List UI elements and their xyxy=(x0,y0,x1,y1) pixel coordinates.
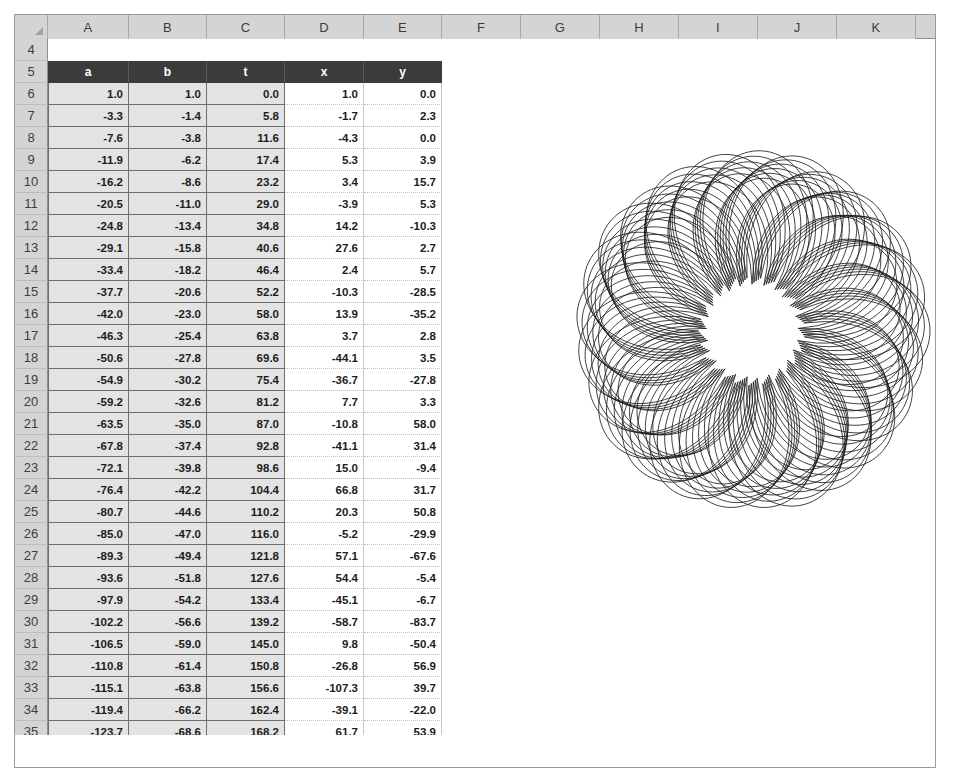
cell-I26[interactable] xyxy=(679,523,758,545)
cell-G30[interactable] xyxy=(521,611,600,633)
cell-A22[interactable]: -67.8 xyxy=(48,435,129,457)
cell-K28[interactable] xyxy=(837,567,916,589)
table-column-header-y[interactable]: y xyxy=(364,61,442,83)
cell-E29[interactable]: -6.7 xyxy=(364,589,442,611)
cell-F16[interactable] xyxy=(442,303,521,325)
select-all-corner-cell[interactable] xyxy=(15,15,48,39)
cell-A19[interactable]: -54.9 xyxy=(48,369,129,391)
cell-J34[interactable] xyxy=(758,699,837,721)
cell-D35[interactable]: 61.7 xyxy=(285,721,364,735)
cell-K17[interactable] xyxy=(837,325,916,347)
cell-J29[interactable] xyxy=(758,589,837,611)
cell-E8[interactable]: 0.0 xyxy=(364,127,442,149)
cell-I12[interactable] xyxy=(679,215,758,237)
column-header-f[interactable]: F xyxy=(442,15,521,39)
cell-K32[interactable] xyxy=(837,655,916,677)
cell-G5[interactable] xyxy=(521,61,600,83)
cell-I6[interactable] xyxy=(679,83,758,105)
cell-D9[interactable]: 5.3 xyxy=(285,149,364,171)
cell-B31[interactable]: -59.0 xyxy=(129,633,207,655)
cell-E18[interactable]: 3.5 xyxy=(364,347,442,369)
cell-F21[interactable] xyxy=(442,413,521,435)
cell-G25[interactable] xyxy=(521,501,600,523)
row-header-35[interactable]: 35 xyxy=(15,721,48,735)
cell-I16[interactable] xyxy=(679,303,758,325)
cell-E32[interactable]: 56.9 xyxy=(364,655,442,677)
cell-H32[interactable] xyxy=(600,655,679,677)
cell-B6[interactable]: 1.0 xyxy=(129,83,207,105)
cell-A6[interactable]: 1.0 xyxy=(48,83,129,105)
cell-B9[interactable]: -6.2 xyxy=(129,149,207,171)
cell-E23[interactable]: -9.4 xyxy=(364,457,442,479)
cell-A27[interactable]: -89.3 xyxy=(48,545,129,567)
cell-G11[interactable] xyxy=(521,193,600,215)
cell-G8[interactable] xyxy=(521,127,600,149)
cell-E30[interactable]: -83.7 xyxy=(364,611,442,633)
cell-I7[interactable] xyxy=(679,105,758,127)
row-header-31[interactable]: 31 xyxy=(15,633,48,655)
cell-I19[interactable] xyxy=(679,369,758,391)
cell-J11[interactable] xyxy=(758,193,837,215)
cell-E11[interactable]: 5.3 xyxy=(364,193,442,215)
cell-B32[interactable]: -61.4 xyxy=(129,655,207,677)
row-header-15[interactable]: 15 xyxy=(15,281,48,303)
cell-G19[interactable] xyxy=(521,369,600,391)
cell-G4[interactable] xyxy=(521,39,600,61)
cell-D16[interactable]: 13.9 xyxy=(285,303,364,325)
cell-B12[interactable]: -13.4 xyxy=(129,215,207,237)
cell-B7[interactable]: -1.4 xyxy=(129,105,207,127)
cell-F9[interactable] xyxy=(442,149,521,171)
cell-D13[interactable]: 27.6 xyxy=(285,237,364,259)
cell-C19[interactable]: 75.4 xyxy=(207,369,285,391)
cell-F6[interactable] xyxy=(442,83,521,105)
cell-J5[interactable] xyxy=(758,61,837,83)
cell-B25[interactable]: -44.6 xyxy=(129,501,207,523)
cell-E12[interactable]: -10.3 xyxy=(364,215,442,237)
cell-A34[interactable]: -119.4 xyxy=(48,699,129,721)
cell-C26[interactable]: 116.0 xyxy=(207,523,285,545)
row-header-12[interactable]: 12 xyxy=(15,215,48,237)
cell-B14[interactable]: -18.2 xyxy=(129,259,207,281)
cell-J14[interactable] xyxy=(758,259,837,281)
cell-I21[interactable] xyxy=(679,413,758,435)
cell-F25[interactable] xyxy=(442,501,521,523)
cell-K31[interactable] xyxy=(837,633,916,655)
cell-D26[interactable]: -5.2 xyxy=(285,523,364,545)
cell-A26[interactable]: -85.0 xyxy=(48,523,129,545)
cell-E15[interactable]: -28.5 xyxy=(364,281,442,303)
cell-J20[interactable] xyxy=(758,391,837,413)
cell-J13[interactable] xyxy=(758,237,837,259)
cell-H34[interactable] xyxy=(600,699,679,721)
cell-K29[interactable] xyxy=(837,589,916,611)
row-header-24[interactable]: 24 xyxy=(15,479,48,501)
cell-I31[interactable] xyxy=(679,633,758,655)
row-header-22[interactable]: 22 xyxy=(15,435,48,457)
row-header-6[interactable]: 6 xyxy=(15,83,48,105)
cell-G29[interactable] xyxy=(521,589,600,611)
cell-F33[interactable] xyxy=(442,677,521,699)
cell-F30[interactable] xyxy=(442,611,521,633)
cell-B4[interactable] xyxy=(129,39,207,61)
cell-G18[interactable] xyxy=(521,347,600,369)
cell-I34[interactable] xyxy=(679,699,758,721)
cell-H16[interactable] xyxy=(600,303,679,325)
cell-I14[interactable] xyxy=(679,259,758,281)
cell-I13[interactable] xyxy=(679,237,758,259)
cell-D20[interactable]: 7.7 xyxy=(285,391,364,413)
cell-F32[interactable] xyxy=(442,655,521,677)
cell-K14[interactable] xyxy=(837,259,916,281)
cell-K35[interactable] xyxy=(837,721,916,735)
cell-F18[interactable] xyxy=(442,347,521,369)
cell-E16[interactable]: -35.2 xyxy=(364,303,442,325)
cell-J17[interactable] xyxy=(758,325,837,347)
cell-I30[interactable] xyxy=(679,611,758,633)
cell-A32[interactable]: -110.8 xyxy=(48,655,129,677)
table-column-header-b[interactable]: b xyxy=(129,61,207,83)
cell-E9[interactable]: 3.9 xyxy=(364,149,442,171)
cell-F7[interactable] xyxy=(442,105,521,127)
column-header-g[interactable]: G xyxy=(521,15,600,39)
cell-K27[interactable] xyxy=(837,545,916,567)
cell-B28[interactable]: -51.8 xyxy=(129,567,207,589)
cell-G10[interactable] xyxy=(521,171,600,193)
cell-G32[interactable] xyxy=(521,655,600,677)
